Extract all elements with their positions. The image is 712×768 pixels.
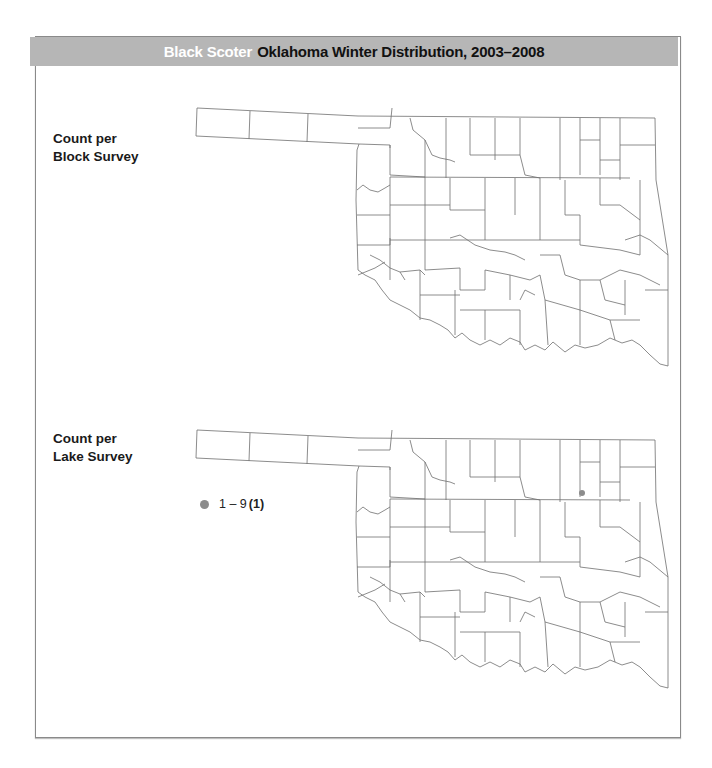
record-dot-icon [579, 490, 585, 496]
lake-survey-map [0, 0, 712, 768]
oklahoma-county-map-lake [0, 0, 712, 768]
